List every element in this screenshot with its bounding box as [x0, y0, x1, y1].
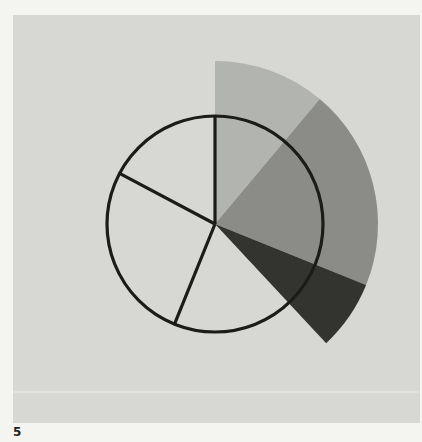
pie-radial-line [175, 224, 216, 324]
pie-radial-line [120, 173, 215, 224]
pie-fan-chart [0, 0, 422, 442]
figure-page: 5 [0, 0, 422, 442]
figure-number: 5 [13, 426, 21, 438]
